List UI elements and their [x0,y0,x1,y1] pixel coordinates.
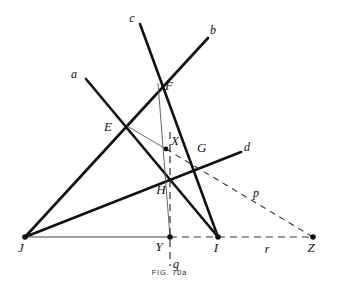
point-label-X: X [170,133,180,148]
line-label-a: a [71,67,77,81]
point-label-J: J [18,240,25,255]
line-c-stroke [140,24,218,237]
line-label-b: b [210,23,216,37]
geometry-diagram: E F G H X Y I J Z a b c d p q r [0,0,339,298]
line-label-p: p [252,186,259,200]
point-dot-I [215,234,221,240]
point-label-Y: Y [155,239,164,254]
point-label-I: I [213,240,219,255]
figure-container: E F G H X Y I J Z a b c d p q r FIG. 70a [0,0,339,298]
point-label-E: E [103,119,112,134]
point-dot-Y [167,234,173,240]
point-label-G: G [197,140,207,155]
segment-f-y-stroke [158,83,170,237]
point-dot-X [164,147,169,152]
line-a-stroke [86,79,218,237]
point-dot-J [22,234,28,240]
point-label-H: H [155,182,166,197]
figure-caption: FIG. 70a [0,268,339,277]
line-label-d: d [244,140,251,154]
line-label-c: c [129,11,135,25]
point-dot-Z [310,234,316,240]
segment-e-x-stroke [127,126,166,149]
point-label-F: F [164,78,174,93]
line-label-r: r [265,242,270,256]
dashed-line-p-stroke [166,149,313,237]
point-label-Z: Z [307,240,315,255]
